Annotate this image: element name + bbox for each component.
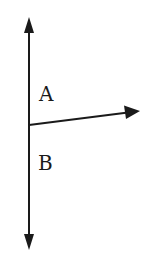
right-arrow	[29, 106, 140, 126]
diagram-canvas	[0, 0, 150, 266]
vector-diagram: A B	[0, 0, 150, 266]
label-b: B	[38, 153, 53, 173]
vertical-double-arrow	[24, 17, 34, 250]
up-arrowhead-icon	[24, 17, 34, 33]
down-arrowhead-icon	[24, 234, 34, 250]
right-arrow-shaft	[29, 113, 128, 126]
label-a: A	[39, 84, 53, 104]
right-arrowhead-icon	[124, 106, 140, 120]
